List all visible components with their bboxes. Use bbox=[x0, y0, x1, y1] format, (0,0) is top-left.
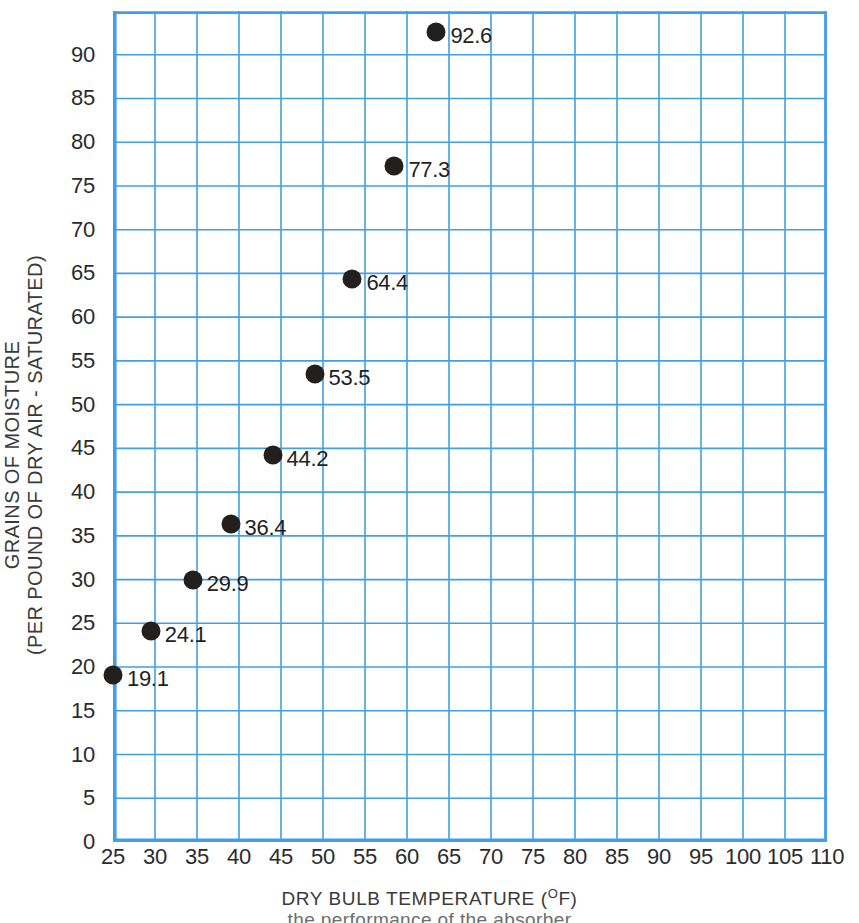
x-tick-label: 40 bbox=[227, 846, 251, 868]
x-tick-label: 35 bbox=[185, 846, 209, 868]
y-tick-label: 10 bbox=[71, 744, 95, 766]
y-tick-label: 40 bbox=[71, 481, 95, 503]
x-tick-label: 30 bbox=[143, 846, 167, 868]
chart-root: GRAINS OF MOISTURE (PER POUND OF DRY AIR… bbox=[0, 0, 859, 923]
y-tick-label: 90 bbox=[71, 44, 95, 66]
data-point[interactable] bbox=[104, 665, 123, 684]
data-point[interactable] bbox=[141, 622, 160, 641]
y-tick-label: 30 bbox=[71, 569, 95, 591]
y-tick-label: 70 bbox=[71, 219, 95, 241]
degree-symbol: O bbox=[548, 886, 559, 901]
x-tick-label: 25 bbox=[101, 846, 125, 868]
y-tick-label: 15 bbox=[71, 700, 95, 722]
x-tick-label: 65 bbox=[437, 846, 461, 868]
y-tick-label: 5 bbox=[83, 787, 95, 809]
x-axis-title: DRY BULB TEMPERATURE (OF) bbox=[0, 888, 859, 910]
data-point[interactable] bbox=[385, 156, 404, 175]
x-tick-label: 80 bbox=[563, 846, 587, 868]
x-tick-label: 55 bbox=[353, 846, 377, 868]
y-tick-label: 75 bbox=[71, 175, 95, 197]
x-tick-label: 100 bbox=[725, 846, 761, 868]
data-point-label: 64.4 bbox=[366, 272, 408, 294]
data-point[interactable] bbox=[427, 22, 446, 41]
data-point[interactable] bbox=[263, 446, 282, 465]
y-tick-label: 85 bbox=[71, 87, 95, 109]
data-point[interactable] bbox=[305, 365, 324, 384]
data-point[interactable] bbox=[183, 571, 202, 590]
data-point-label: 53.5 bbox=[329, 367, 371, 389]
data-point[interactable] bbox=[221, 514, 240, 533]
x-tick-label: 60 bbox=[395, 846, 419, 868]
data-point[interactable] bbox=[343, 269, 362, 288]
data-point-label: 44.2 bbox=[287, 448, 329, 470]
data-point-label: 29.9 bbox=[207, 573, 249, 595]
x-tick-label: 70 bbox=[479, 846, 503, 868]
data-point-label: 19.1 bbox=[127, 668, 169, 690]
data-point-label: 92.6 bbox=[450, 25, 492, 47]
y-tick-label: 45 bbox=[71, 437, 95, 459]
y-tick-label: 50 bbox=[71, 394, 95, 416]
clipped-caption: the performance of the absorber bbox=[0, 909, 859, 923]
plot-area: 19.124.129.936.444.253.564.477.392.6 bbox=[113, 11, 827, 842]
x-tick-label: 110 bbox=[810, 846, 844, 868]
x-axis-title-tail: F) bbox=[558, 888, 577, 909]
data-point-label: 36.4 bbox=[245, 517, 287, 539]
y-tick-label: 25 bbox=[71, 612, 95, 634]
y-tick-label: 20 bbox=[71, 656, 95, 678]
y-tick-label: 80 bbox=[71, 131, 95, 153]
y-axis-tick-labels: 051015202530354045505560657075808590 bbox=[0, 11, 105, 842]
x-tick-label: 50 bbox=[311, 846, 335, 868]
y-tick-label: 35 bbox=[71, 525, 95, 547]
x-axis-tick-labels: 253035404550556065707580859095100105110 bbox=[113, 846, 827, 876]
x-axis-title-main: DRY BULB TEMPERATURE ( bbox=[281, 888, 547, 909]
x-tick-label: 90 bbox=[647, 846, 671, 868]
y-tick-label: 55 bbox=[71, 350, 95, 372]
x-tick-label: 75 bbox=[521, 846, 545, 868]
data-point-label: 24.1 bbox=[165, 624, 207, 646]
x-tick-label: 95 bbox=[689, 846, 713, 868]
y-tick-label: 60 bbox=[71, 306, 95, 328]
y-tick-label: 0 bbox=[83, 831, 95, 853]
x-tick-label: 105 bbox=[767, 846, 803, 868]
y-tick-label: 65 bbox=[71, 262, 95, 284]
data-point-label: 77.3 bbox=[408, 159, 450, 181]
x-tick-label: 45 bbox=[269, 846, 293, 868]
x-tick-label: 85 bbox=[605, 846, 629, 868]
grid-lines bbox=[113, 11, 827, 842]
